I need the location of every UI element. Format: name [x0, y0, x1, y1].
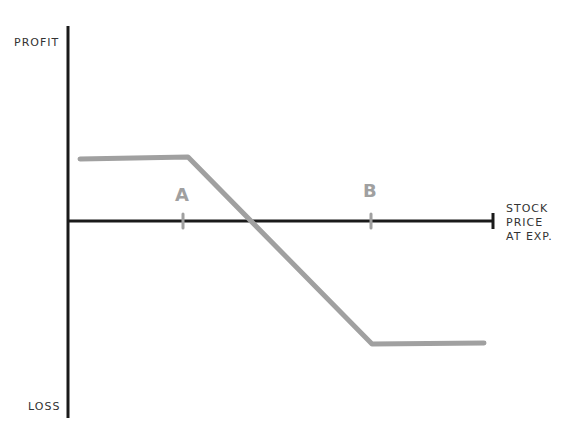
x-axis-label-1: STOCK	[506, 202, 548, 215]
x-axis-label-3: AT EXP.	[506, 230, 553, 243]
payoff-diagram	[0, 0, 578, 442]
payoff-line	[80, 157, 484, 344]
x-axis-label-2: PRICE	[506, 216, 543, 229]
profit-label: PROFIT	[14, 36, 59, 49]
loss-label: LOSS	[28, 400, 60, 413]
strike-a-label: A	[175, 188, 190, 201]
strike-b-label: B	[363, 184, 378, 197]
